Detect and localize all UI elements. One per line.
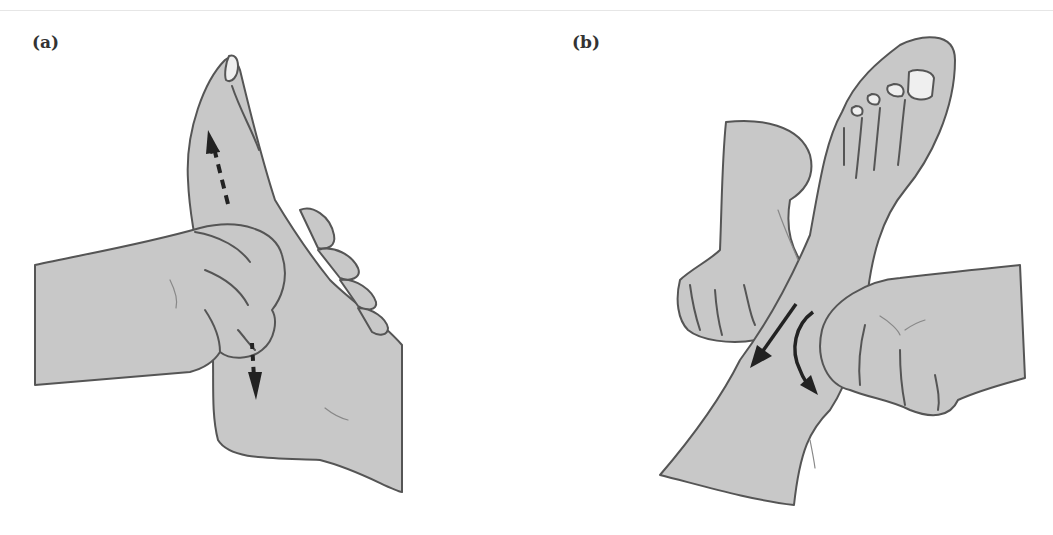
big-toenail-b bbox=[908, 70, 934, 99]
panel-b-illustration bbox=[660, 37, 1025, 505]
small-toes-a bbox=[300, 209, 334, 249]
figure-illustration bbox=[0, 0, 1053, 535]
panel-a-illustration bbox=[35, 55, 402, 492]
toenail-b-3 bbox=[868, 94, 880, 105]
toenail-b-4 bbox=[852, 106, 863, 116]
toenail-a bbox=[225, 55, 238, 81]
toenail-b-2 bbox=[887, 84, 903, 96]
